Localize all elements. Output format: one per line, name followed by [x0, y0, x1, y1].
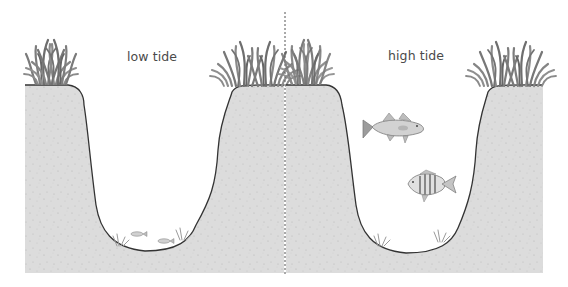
small-fish-icon	[158, 239, 174, 244]
high-tide-panel	[278, 40, 556, 273]
bass-fish-icon	[363, 113, 424, 143]
small-fish-icon	[131, 232, 147, 237]
grass-icon	[466, 42, 518, 86]
low-tide-label: low tide	[127, 49, 177, 64]
striped-fish-icon	[408, 170, 456, 202]
low-tide-ground	[25, 85, 284, 273]
high-tide-label: high tide	[388, 48, 444, 63]
grass-icon	[504, 42, 556, 86]
grass-icon	[210, 42, 262, 86]
tide-pool-diagram	[0, 0, 568, 287]
seaweed-icon	[434, 230, 450, 242]
low-tide-panel	[24, 40, 300, 273]
